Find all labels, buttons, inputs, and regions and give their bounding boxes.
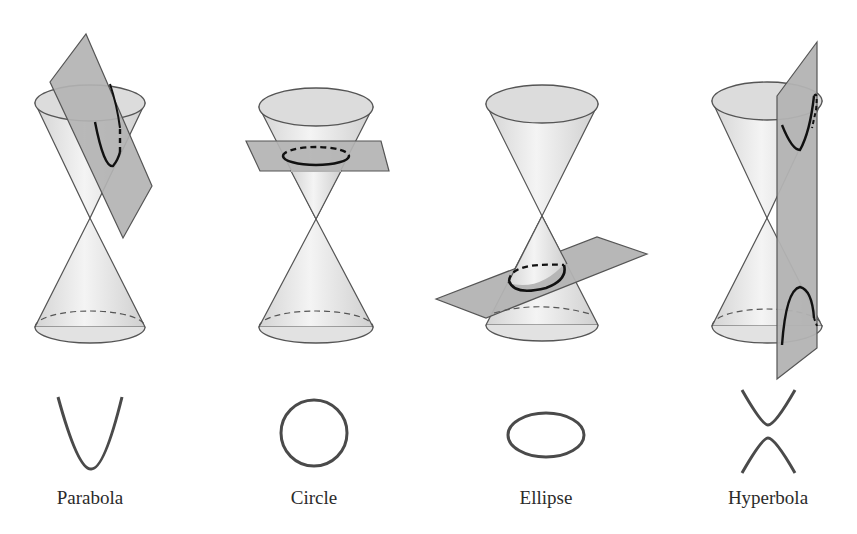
circle-label: Circle	[244, 487, 384, 509]
circle-cone-figure	[246, 88, 389, 343]
circle-shape-icon	[281, 400, 347, 466]
ellipse-shape-icon	[508, 413, 584, 457]
hyperbola-cone-figure	[712, 42, 822, 379]
hyperbola-upper-branch-icon	[742, 390, 795, 425]
ellipse-label: Ellipse	[476, 487, 616, 509]
parabola-cone-figure	[35, 34, 152, 343]
parabola-shape-icon	[58, 397, 122, 469]
hyperbola-label: Hyperbola	[698, 487, 838, 509]
hyperbola-lower-branch-icon	[742, 438, 795, 473]
parabola-label: Parabola	[20, 487, 160, 509]
conic-sections-diagram: Parabola Circle Ellipse Hyperbola	[0, 0, 857, 534]
ellipse-cone-figure	[436, 85, 647, 341]
